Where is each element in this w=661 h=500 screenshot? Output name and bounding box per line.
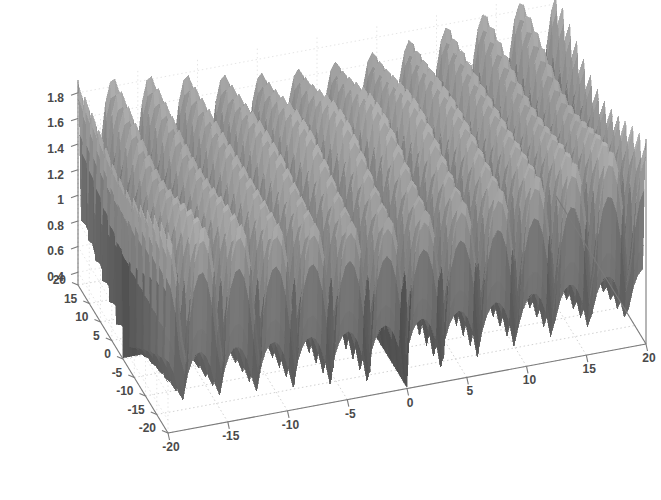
z-tick-mark [71, 118, 78, 120]
y-tick-mark [72, 283, 78, 286]
x-tick-label: -5 [345, 407, 356, 421]
z-tick-mark [71, 195, 78, 197]
y-tick-label: 5 [93, 329, 100, 343]
y-tick-label: 15 [64, 292, 78, 306]
z-tick-label: 1.4 [47, 142, 64, 156]
z-tick-mark [71, 93, 78, 95]
z-tick-mark [71, 247, 78, 249]
z-tick-mark [71, 170, 78, 172]
z-tick-label: 0.6 [47, 244, 64, 258]
z-tick-label: 1.6 [47, 116, 64, 130]
z-tick-label: 1 [57, 193, 64, 207]
y-tick-label: 20 [53, 273, 67, 287]
plot-canvas: 0.40.60.811.21.41.61.8-20-15-10-50510152… [0, 0, 661, 500]
x-tick-mark [228, 422, 230, 429]
x-tick-label: 15 [583, 362, 597, 376]
y-tick-label: -20 [139, 421, 157, 435]
y-tick-label: -10 [116, 384, 134, 398]
z-tick-label: 1.8 [47, 91, 64, 105]
z-tick-mark [71, 144, 78, 146]
y-tick-label: 10 [75, 310, 89, 324]
z-tick-label: 0.8 [47, 219, 64, 233]
x-tick-mark [527, 366, 529, 373]
x-tick-mark [168, 433, 170, 440]
x-tick-mark [347, 400, 349, 407]
z-tick-label: 1.2 [47, 168, 64, 182]
y-tick-label: -15 [127, 403, 145, 417]
x-tick-label: 5 [466, 384, 473, 398]
y-tick-label: -5 [112, 366, 123, 380]
surface-plot-figure: 0.40.60.811.21.41.61.8-20-15-10-50510152… [0, 0, 661, 500]
x-tick-label: 10 [523, 373, 537, 387]
x-tick-label: -10 [282, 418, 300, 432]
z-tick-mark [71, 272, 78, 274]
x-tick-mark [407, 389, 409, 396]
x-tick-mark [586, 355, 588, 362]
x-tick-label: 20 [642, 351, 656, 365]
x-tick-mark [646, 344, 648, 351]
x-tick-label: -20 [162, 440, 180, 454]
z-tick-mark [71, 221, 78, 223]
x-tick-mark [467, 377, 469, 384]
y-tick-label: 0 [104, 347, 111, 361]
x-tick-label: 0 [407, 396, 414, 410]
x-tick-label: -15 [222, 429, 240, 443]
x-tick-mark [288, 411, 290, 418]
